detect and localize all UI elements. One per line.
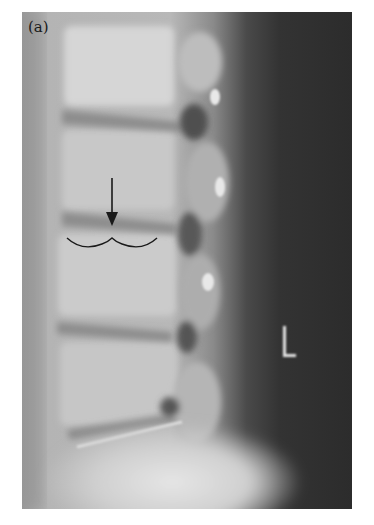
arrow-icon [106,178,118,226]
side-marker-l [280,324,298,360]
curly-brace-icon [67,238,157,247]
xray-image: (a) [22,12,352,509]
panel-label: (a) [28,18,49,36]
annotation-layer [22,12,352,509]
